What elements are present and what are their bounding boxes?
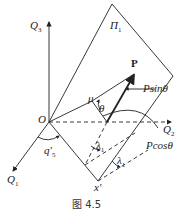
p-vector	[107, 75, 134, 122]
label-q3: Q3	[30, 20, 41, 34]
label-pi1: Π1	[110, 20, 121, 34]
pcos-leader	[103, 110, 158, 128]
label-p: P	[131, 58, 138, 69]
figure-caption: 图 4.5	[72, 196, 101, 211]
label-mu: μ	[88, 93, 94, 104]
label-q1: Q1	[7, 174, 18, 188]
label-psin: Psinθ	[143, 83, 168, 94]
label-q5: q′5	[44, 145, 55, 159]
label-q2: Q2	[163, 124, 174, 138]
label-x: x′	[94, 182, 101, 193]
label-pcos: Pcosθ	[146, 140, 173, 151]
label-lambda1b: λ1	[117, 155, 125, 169]
label-o: O	[38, 114, 46, 125]
label-lambda1a: λ1	[96, 140, 104, 154]
diagram-canvas	[0, 0, 185, 213]
label-theta: θ	[99, 103, 104, 114]
